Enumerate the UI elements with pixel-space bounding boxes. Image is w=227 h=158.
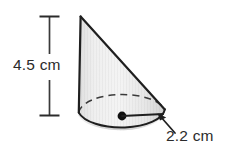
radius-measurement-label: 2.2 cm bbox=[166, 128, 214, 144]
height-measurement-label: 4.5 cm bbox=[13, 57, 61, 73]
geometry-figure: 4.5 cm 2.2 cm bbox=[0, 0, 227, 158]
